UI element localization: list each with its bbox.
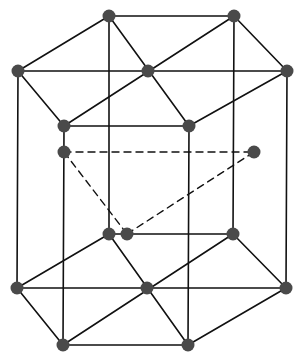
- bond-bot-back-right-to-bot-right: [233, 234, 286, 288]
- atom-mid-left: [58, 146, 71, 159]
- bond-top-front-left-to-top-left: [18, 71, 64, 126]
- bond-bot-front-left-to-bot-left: [17, 288, 63, 345]
- hcp-unit-cell-diagram: [0, 0, 303, 361]
- bond-top-back-right-to-bot-back-right: [233, 16, 234, 234]
- atom-bot-front-left: [57, 339, 70, 352]
- atom-bot-back-left: [103, 228, 116, 241]
- atom-top-center: [142, 65, 155, 78]
- atom-mid-right: [248, 146, 261, 159]
- bond-top-left-to-top-back-left: [18, 16, 109, 71]
- atom-bot-front-right: [182, 339, 195, 352]
- solid-edges: [17, 16, 287, 345]
- bond-top-back-right-to-top-right: [234, 16, 287, 71]
- atom-top-back-right: [228, 10, 241, 23]
- atoms: [11, 10, 294, 352]
- atom-top-front-left: [58, 120, 71, 133]
- dashed-bond-mid-back-to-mid-right: [127, 152, 254, 234]
- atom-bot-right: [280, 282, 293, 295]
- bond-top-front-right-to-bot-front-right: [188, 126, 189, 345]
- dashed-edges: [64, 152, 254, 234]
- atom-top-back-left: [103, 10, 116, 23]
- bond-top-right-to-top-front-right: [189, 71, 287, 126]
- atom-bot-back-right: [227, 228, 240, 241]
- atom-top-left: [12, 65, 25, 78]
- bond-top-left-to-bot-left: [17, 71, 18, 288]
- bond-top-front-left-to-bot-front-left: [63, 126, 64, 345]
- dashed-bond-mid-left-to-mid-back: [64, 152, 127, 234]
- atom-bot-center: [141, 282, 154, 295]
- atom-bot-left: [11, 282, 24, 295]
- atom-top-right: [281, 65, 294, 78]
- bond-top-right-to-bot-right: [286, 71, 287, 288]
- bond-bot-right-to-bot-front-right: [188, 288, 286, 345]
- atom-mid-back: [121, 228, 134, 241]
- atom-top-front-right: [183, 120, 196, 133]
